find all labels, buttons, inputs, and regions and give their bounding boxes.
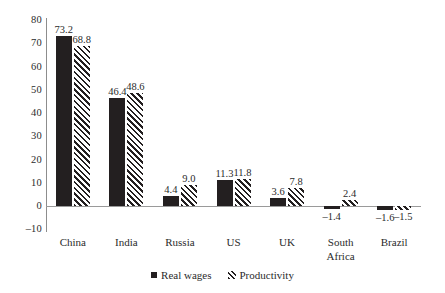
legend-item-productivity: Productivity (228, 269, 294, 281)
x-label-line: UK (260, 236, 314, 250)
bar-uk-real-wages (270, 198, 286, 206)
solid-square-marker-icon (151, 272, 157, 278)
chart-legend: Real wages Productivity (0, 269, 445, 281)
x-axis-label-us: US (207, 236, 261, 250)
bar-south-africa-real-wages (324, 206, 340, 209)
bar-group: 4.49.0 (163, 14, 197, 236)
legend-label-real-wages: Real wages (161, 269, 211, 281)
x-label-line: Africa (314, 250, 368, 264)
bar-value-label: 68.8 (69, 34, 95, 45)
plot-area: 73.268.846.448.64.49.011.311.83.67.8–1.4… (46, 14, 421, 236)
bar-china-productivity (74, 46, 90, 206)
x-label-line: South (314, 236, 368, 250)
y-tick-30: 30 (2, 131, 42, 142)
bar-value-label: –1.5 (390, 211, 416, 222)
y-tick-70: 70 (2, 38, 42, 49)
x-axis-category-labels: ChinaIndiaRussiaUSUKSouthAfricaBrazil (46, 236, 421, 270)
x-label-line: India (100, 236, 154, 250)
x-label-line: US (207, 236, 261, 250)
x-axis-label-brazil: Brazil (367, 236, 421, 250)
y-tick-40: 40 (2, 108, 42, 119)
y-tick-50: 50 (2, 85, 42, 96)
x-label-line: China (46, 236, 100, 250)
bar-group: –1.6–1.5 (377, 14, 411, 236)
bar-group: 11.311.8 (217, 14, 251, 236)
bar-group: 46.448.6 (109, 14, 143, 236)
legend-item-real-wages: Real wages (151, 269, 211, 281)
bar-value-label: 9.0 (176, 173, 202, 184)
bar-value-label: 2.4 (337, 188, 363, 199)
bar-uk-productivity (288, 188, 304, 206)
x-axis-label-russia: Russia (153, 236, 207, 250)
bar-chart: 80 70 60 50 40 30 20 10 0 –10 73.268.846… (0, 0, 445, 293)
bar-value-label: 48.6 (122, 81, 148, 92)
x-label-line: Russia (153, 236, 207, 250)
x-label-line: Brazil (367, 236, 421, 250)
bar-value-label: –1.4 (319, 211, 345, 222)
diagonal-hatch-marker-icon (228, 271, 236, 279)
y-axis-tick-labels: 80 70 60 50 40 30 20 10 0 –10 (0, 0, 42, 293)
bar-value-label: 11.8 (230, 167, 256, 178)
bar-us-productivity (235, 179, 251, 206)
bar-value-label: 7.8 (283, 176, 309, 187)
legend-label-productivity: Productivity (240, 269, 294, 281)
bar-india-productivity (127, 93, 143, 206)
y-tick-0: 0 (2, 201, 42, 212)
bar-brazil-real-wages (377, 206, 393, 210)
bar-group: 3.67.8 (270, 14, 304, 236)
bar-russia-productivity (181, 185, 197, 206)
bar-us-real-wages (217, 180, 233, 206)
y-tick-10: 10 (2, 178, 42, 189)
y-tick-neg10: –10 (2, 224, 42, 235)
bar-group: –1.42.4 (324, 14, 358, 236)
y-tick-80: 80 (2, 15, 42, 26)
x-axis-label-south-africa: SouthAfrica (314, 236, 368, 263)
bar-group: 73.268.8 (56, 14, 90, 236)
x-axis-label-china: China (46, 236, 100, 250)
bar-south-africa-productivity (342, 200, 358, 206)
bar-russia-real-wages (163, 196, 179, 206)
bar-china-real-wages (56, 36, 72, 206)
x-axis-label-india: India (100, 236, 154, 250)
y-tick-20: 20 (2, 155, 42, 166)
bar-brazil-productivity (395, 206, 411, 209)
x-axis-label-uk: UK (260, 236, 314, 250)
bar-india-real-wages (109, 98, 125, 206)
y-tick-60: 60 (2, 62, 42, 73)
